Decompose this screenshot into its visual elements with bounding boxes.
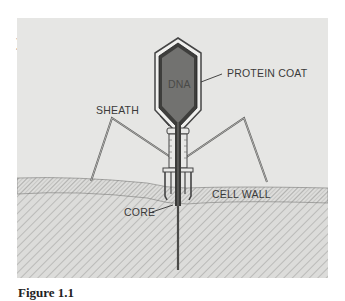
bacteriophage-diagram: DNA PROTEIN COAT SHEATH CORE CELL WALL bbox=[17, 18, 328, 278]
dna-label: DNA bbox=[168, 78, 191, 90]
cell-wall-label: CELL WALL bbox=[212, 188, 271, 200]
phage-illustration bbox=[17, 18, 328, 278]
figure-caption: Figure 1.1 bbox=[18, 285, 74, 301]
core-label: CORE bbox=[124, 206, 155, 218]
sheath-label: SHEATH bbox=[96, 104, 139, 116]
protein-coat-label: PROTEIN COAT bbox=[227, 67, 307, 79]
